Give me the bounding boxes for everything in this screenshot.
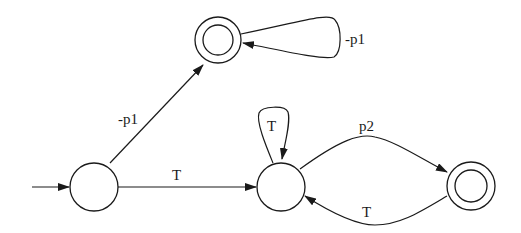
edge-label-s0-s2: T: [172, 167, 181, 183]
edge-label-s2-loop: T: [267, 118, 276, 134]
state-s0: [70, 163, 118, 211]
edge-label-s3-s2: T: [362, 204, 371, 220]
state-s3-accepting: [447, 162, 495, 210]
edge-s1-loop: [241, 17, 340, 57]
edge-label-s1-loop: -p1: [345, 31, 365, 47]
edge-s3-s2: [305, 196, 447, 225]
edge-s2-loop: [258, 107, 288, 163]
automaton-diagram: -p1 -p1 T T p2 T: [0, 0, 521, 233]
edge-label-s2-s3: p2: [359, 118, 374, 134]
state-s1-accepting: [195, 17, 241, 63]
state-s2: [257, 163, 305, 211]
edge-s2-s3: [300, 136, 447, 172]
edge-label-s0-s1: -p1: [118, 111, 138, 127]
